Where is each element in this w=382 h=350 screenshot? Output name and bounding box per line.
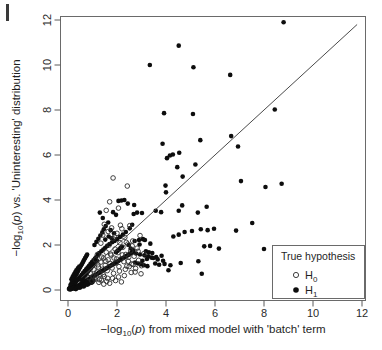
data-point-h1 <box>98 210 103 215</box>
data-point-h1 <box>160 141 165 146</box>
data-point-h1 <box>85 252 90 257</box>
data-point-h1 <box>262 247 267 252</box>
data-point-h1 <box>175 165 180 170</box>
data-point-h1 <box>148 63 153 68</box>
y-axis-ticks: 024681012 <box>41 14 61 293</box>
data-point-h1 <box>279 182 284 187</box>
data-point-h1 <box>177 150 182 155</box>
data-point-h0 <box>117 269 122 274</box>
data-point-h1 <box>140 211 145 216</box>
data-point-h1 <box>159 254 164 259</box>
data-point-h1 <box>150 251 155 256</box>
data-point-h1 <box>212 227 217 232</box>
data-point-h0 <box>119 280 124 285</box>
figure-container: 024681012 024681012 −log10(p) from mixed… <box>0 0 382 350</box>
data-point-h1 <box>239 179 244 184</box>
data-point-h1 <box>272 107 277 112</box>
data-point-h1 <box>153 261 158 266</box>
data-point-h1 <box>137 238 142 243</box>
data-point-h1 <box>162 111 167 116</box>
data-point-h1 <box>100 216 105 221</box>
data-point-h1 <box>164 190 169 195</box>
data-point-h1 <box>176 43 181 48</box>
data-point-h1 <box>116 199 121 204</box>
y-tick-label: 4 <box>41 197 53 203</box>
data-point-h1 <box>176 232 181 237</box>
series-h1-points <box>67 20 286 292</box>
data-point-h1 <box>176 209 181 214</box>
legend-marker-h1-icon <box>293 287 299 293</box>
data-point-h1 <box>208 244 213 249</box>
y-axis-title: −log10(p) vs. 'Uninteresting' distributi… <box>10 59 25 256</box>
identity-reference-line <box>81 25 357 278</box>
data-point-h1 <box>236 144 241 149</box>
data-point-h1 <box>182 230 187 235</box>
data-point-h0 <box>111 271 116 276</box>
data-point-h1 <box>132 203 137 208</box>
y-tick-label: 10 <box>41 59 53 71</box>
data-point-h1 <box>125 201 130 206</box>
data-point-h1 <box>229 134 234 139</box>
data-point-h1 <box>204 204 209 209</box>
data-point-h1 <box>103 237 108 242</box>
data-point-h0 <box>125 184 130 189</box>
y-tick-label: 8 <box>41 107 53 113</box>
data-point-h1 <box>148 241 153 246</box>
data-point-h1 <box>191 65 196 70</box>
data-point-h0 <box>116 275 121 280</box>
data-point-h1 <box>157 263 162 268</box>
data-point-h1 <box>155 257 160 262</box>
data-point-h1 <box>92 243 97 248</box>
data-point-h1 <box>166 268 171 273</box>
y-tick-label: 6 <box>41 152 53 158</box>
data-point-h1 <box>171 234 176 239</box>
x-tick-label: 0 <box>65 307 71 319</box>
y-tick-label: 0 <box>41 287 53 293</box>
data-point-h1 <box>190 229 195 234</box>
data-point-h1 <box>198 227 203 232</box>
data-point-h1 <box>165 156 170 161</box>
data-point-h0 <box>139 272 144 277</box>
data-point-h0 <box>104 208 109 213</box>
data-point-h1 <box>199 272 204 277</box>
y-tick-label: 12 <box>41 14 53 26</box>
series-h0-points <box>87 176 147 287</box>
data-point-h1 <box>193 162 198 167</box>
x-tick-label: 8 <box>261 307 267 319</box>
data-point-h1 <box>161 258 166 263</box>
data-point-h1 <box>178 261 183 266</box>
data-point-h1 <box>228 73 233 78</box>
data-point-h1 <box>180 174 185 179</box>
x-tick-label: 2 <box>114 307 120 319</box>
data-point-h1 <box>263 185 268 190</box>
data-point-h1 <box>191 112 196 117</box>
legend: True hypothesis H0 H1 <box>273 246 365 300</box>
data-point-h1 <box>205 228 210 233</box>
data-point-h1 <box>198 138 203 143</box>
x-axis-title: −log10(p) from mixed model with 'batch' … <box>100 323 325 338</box>
data-point-h1 <box>145 264 150 269</box>
data-point-h1 <box>135 210 140 215</box>
data-point-h1 <box>196 210 201 215</box>
data-point-h1 <box>250 221 255 226</box>
data-point-h0 <box>116 206 121 211</box>
data-point-h1 <box>151 256 156 261</box>
scatter-plot: 024681012 024681012 −log10(p) from mixed… <box>0 0 382 350</box>
data-point-h1 <box>77 264 82 269</box>
data-point-h0 <box>135 246 140 251</box>
data-point-h1 <box>196 259 201 264</box>
data-point-h0 <box>122 273 127 278</box>
data-point-h1 <box>159 210 164 215</box>
data-point-h0 <box>101 282 106 287</box>
data-point-h1 <box>234 228 239 233</box>
data-point-h1 <box>171 152 176 157</box>
data-point-h1 <box>281 20 286 25</box>
data-point-h1 <box>146 254 151 259</box>
x-tick-label: 6 <box>212 307 218 319</box>
data-point-h0 <box>107 200 112 205</box>
x-tick-label: 4 <box>163 307 169 319</box>
data-point-h0 <box>138 233 143 238</box>
data-point-h1 <box>168 263 173 268</box>
data-point-h1 <box>111 210 116 215</box>
data-point-h0 <box>117 264 122 269</box>
